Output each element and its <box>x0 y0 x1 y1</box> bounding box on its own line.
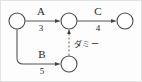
node-start[interactable] <box>9 13 25 29</box>
edge-c-name-label: C <box>94 5 101 17</box>
edge-c-duration-label: 4 <box>96 23 101 33</box>
edge-b-duration-label: 5 <box>40 66 45 76</box>
node-end[interactable] <box>117 13 133 29</box>
node-merge-bottom[interactable] <box>61 56 77 72</box>
edge-a-name-label: A <box>37 5 45 17</box>
edge-dummy-label: ダミー <box>74 39 99 49</box>
edge-b-name-label: B <box>38 48 45 60</box>
node-merge-top[interactable] <box>61 13 77 29</box>
arrow-diagram-svg: A 3 C 4 B 5 ダミー <box>0 0 142 82</box>
arrow-diagram-canvas: A 3 C 4 B 5 ダミー <box>0 0 142 82</box>
edge-a-duration-label: 3 <box>39 23 44 33</box>
